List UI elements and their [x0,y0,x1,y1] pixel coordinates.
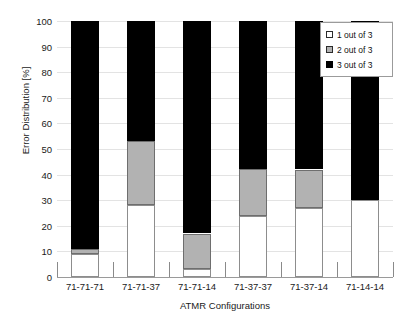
y-tick-label: 0 [6,272,52,283]
x-axis-tick-marks [57,262,393,278]
y-tick-label: 70 [6,92,52,103]
y-tick-label: 40 [6,169,52,180]
gridline [57,123,393,124]
gridline [57,149,393,150]
bar-segment[interactable] [295,170,323,208]
y-tick-label: 100 [6,16,52,27]
legend-swatch-icon [326,61,333,68]
gridline [57,251,393,252]
x-tick-mark [225,262,226,277]
legend-label: 1 out of 3 [337,30,372,40]
y-tick-label: 20 [6,220,52,231]
bar-segment[interactable] [71,249,99,254]
bar-segment[interactable] [183,21,211,233]
bar-segment[interactable] [127,141,155,205]
x-tick-label: 71-37-14 [290,281,328,292]
x-tick-label: 71-37-37 [234,281,272,292]
bar-segment[interactable] [239,21,267,169]
bar-group[interactable] [183,21,211,277]
x-tick-mark [337,262,338,277]
gridline [57,200,393,201]
legend-swatch-icon [326,31,333,38]
x-tick-mark [57,262,58,277]
bar-segment[interactable] [239,169,267,215]
y-tick-label: 60 [6,118,52,129]
chart-figure: Error Distribution [%] 01020304050607080… [0,0,397,331]
legend-item[interactable]: 1 out of 3 [326,27,387,42]
legend-label: 2 out of 3 [337,45,372,55]
bar-group[interactable] [127,21,155,277]
y-tick-label: 90 [6,41,52,52]
legend-item[interactable]: 3 out of 3 [326,57,387,72]
x-axis-tick-labels: 71-71-7171-71-3771-71-1471-37-3771-37-14… [57,281,393,297]
bar-segment[interactable] [295,21,323,169]
legend-label: 3 out of 3 [337,60,372,70]
x-tick-label: 71-71-71 [66,281,104,292]
bar-group[interactable] [295,21,323,277]
bar-segment[interactable] [71,21,99,249]
y-axis-tick-labels: 0102030405060708090100 [0,0,52,331]
gridline [57,98,393,99]
bar-segment[interactable] [127,21,155,141]
y-tick-label: 80 [6,67,52,78]
x-axis-title: ATMR Configurations [57,300,393,311]
gridline [57,175,393,176]
bar-group[interactable] [239,21,267,277]
legend-item[interactable]: 2 out of 3 [326,42,387,57]
x-tick-label: 71-14-14 [346,281,384,292]
x-tick-mark [393,262,394,277]
chart-legend: 1 out of 32 out of 33 out of 3 [320,22,393,77]
x-tick-label: 71-71-14 [178,281,216,292]
bar-group[interactable] [71,21,99,277]
y-tick-label: 50 [6,144,52,155]
x-tick-mark [169,262,170,277]
gridline [57,226,393,227]
x-tick-label: 71-71-37 [122,281,160,292]
x-tick-mark [113,262,114,277]
x-tick-mark [281,262,282,277]
y-tick-label: 10 [6,246,52,257]
legend-swatch-icon [326,46,333,53]
y-tick-label: 30 [6,195,52,206]
